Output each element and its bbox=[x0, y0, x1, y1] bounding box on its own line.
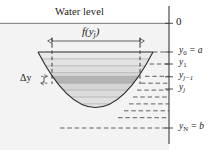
delta-y-label: Δy bbox=[20, 73, 31, 83]
axis-label-y1: y1 bbox=[179, 58, 187, 68]
width-function-paren: ) bbox=[96, 25, 100, 37]
axis-label-y0-equals: = a bbox=[187, 45, 203, 55]
axis-label-yjm1: yj−1 bbox=[179, 71, 193, 81]
axis-label-yN: yN = b bbox=[179, 122, 204, 132]
origin-label: 0 bbox=[176, 16, 182, 27]
axis-label-yN-equals: = b bbox=[188, 121, 204, 131]
water-level-label: Water level bbox=[55, 7, 104, 18]
width-function-text: f(y bbox=[82, 25, 94, 37]
width-function-label: f(yj) bbox=[82, 26, 99, 39]
axis-label-yj-subscript: j bbox=[183, 86, 185, 93]
axis-label-yj: yj bbox=[179, 83, 185, 93]
strip-band bbox=[30, 52, 170, 59]
hydrostatic-figure: Water level 0 f(yj) Δy y0 = a y1 yj−1 yj… bbox=[0, 0, 220, 150]
axis-label-yjm1-subscript: j−1 bbox=[183, 74, 193, 81]
axis-label-y1-subscript: 1 bbox=[183, 61, 186, 68]
axis-label-y0: y0 = a bbox=[179, 46, 203, 56]
